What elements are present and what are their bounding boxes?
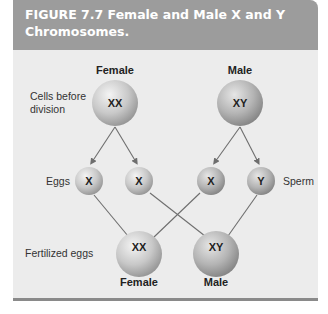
male-parent-genotype: XY	[220, 97, 260, 110]
row-label-cells-before-division: Cells before division	[30, 90, 90, 116]
sperm-1-genotype: X	[201, 175, 221, 188]
offspring-label-male: Male	[186, 276, 246, 289]
row-label-eggs: Eggs	[46, 175, 70, 188]
offspring-male-genotype: XY	[196, 241, 236, 254]
fertilization-lines	[94, 193, 257, 237]
offspring-male-cell	[193, 231, 239, 277]
row-label-sperm: Sperm	[283, 175, 314, 188]
offspring-female-genotype: XX	[119, 241, 159, 254]
offspring-label-female: Female	[107, 276, 171, 289]
sperm-2-genotype: Y	[251, 175, 271, 188]
egg-2-genotype: X	[129, 175, 149, 188]
column-label-female: Female	[85, 64, 145, 77]
column-label-male: Male	[210, 64, 270, 77]
egg-1-genotype: X	[79, 175, 99, 188]
chromosome-diagram	[0, 0, 328, 314]
division-arrows	[92, 127, 258, 162]
female-parent-genotype: XX	[95, 97, 135, 110]
offspring-female-cell	[116, 231, 162, 277]
row-label-fertilized-eggs: Fertilized eggs	[25, 247, 93, 260]
